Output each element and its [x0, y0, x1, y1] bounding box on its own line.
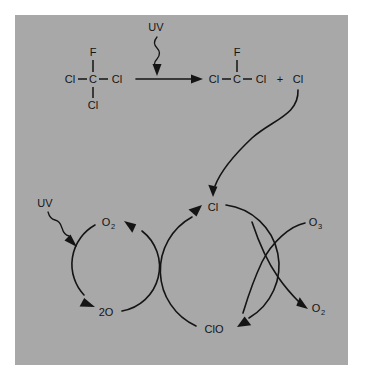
uv-photon-top: UV	[148, 21, 164, 76]
reactant-top-label: F	[90, 46, 97, 58]
uv-label-left: UV	[37, 197, 53, 209]
oxygen-output-label: O	[312, 302, 321, 314]
uv-wave-left	[48, 212, 69, 236]
oxygen-cycle-top-subscript: 2	[111, 222, 115, 231]
oxygen-cycle-right-arc	[122, 231, 160, 311]
product-top-label: F	[234, 46, 241, 58]
oxygen-cycle-top-label: O	[102, 216, 111, 228]
plus-sign: +	[277, 73, 283, 85]
radical-to-cycle-curve	[215, 90, 298, 186]
product-center-atom: C	[233, 73, 241, 85]
reactant-left-label: Cl	[65, 73, 75, 85]
oxygen-cycle-left-arc	[72, 225, 95, 295]
product-left-label: Cl	[209, 73, 219, 85]
cycle-bottom-label-clo: ClO	[205, 323, 224, 335]
oxygen-output-arc	[252, 222, 300, 303]
ozone-input-subscript: 3	[318, 222, 322, 231]
radical-to-cycle-arrowhead	[208, 185, 217, 197]
reactant-right-label: Cl	[112, 73, 122, 85]
uv-arrowhead-top	[153, 64, 162, 76]
ozone-exchange: O 3 O 2	[243, 216, 325, 317]
ozone-input-label: O	[309, 216, 318, 228]
oxygen-cycle-bottom-label: 2O	[99, 306, 114, 318]
uv-label-top: UV	[148, 21, 164, 33]
oxygen-output-subscript: 2	[321, 308, 325, 317]
chlorine-cycle-left-arc	[160, 217, 196, 326]
reactant-molecule: F Cl C Cl Cl	[65, 46, 122, 111]
chlorine-cycle: Cl ClO	[160, 201, 279, 335]
uv-photon-left: UV	[37, 197, 77, 247]
chemistry-diagram: F Cl C Cl Cl UV	[0, 0, 365, 381]
reactant-center-atom: C	[89, 73, 97, 85]
reactant-bottom-label: Cl	[88, 99, 98, 111]
oxygen-cycle-left-arrowhead	[80, 298, 95, 307]
product-molecule: F Cl C Cl + Cl	[209, 46, 303, 85]
radical-to-cycle-arrow	[208, 90, 298, 197]
reaction-arrow	[136, 75, 203, 84]
reaction-arrow-head	[191, 75, 203, 84]
cycle-top-label-cl: Cl	[208, 201, 218, 213]
oxygen-cycle: O 2 2O	[72, 216, 160, 318]
figure-canvas: F Cl C Cl Cl UV	[0, 0, 365, 381]
uv-arrowhead-left	[65, 235, 78, 248]
free-chlorine-radical: Cl	[293, 73, 303, 85]
chlorine-cycle-left-arrowhead	[189, 205, 203, 217]
oxygen-output-arrowhead	[296, 297, 308, 309]
product-right-label: Cl	[256, 73, 266, 85]
oxygen-cycle-right-arrowhead	[124, 221, 136, 233]
